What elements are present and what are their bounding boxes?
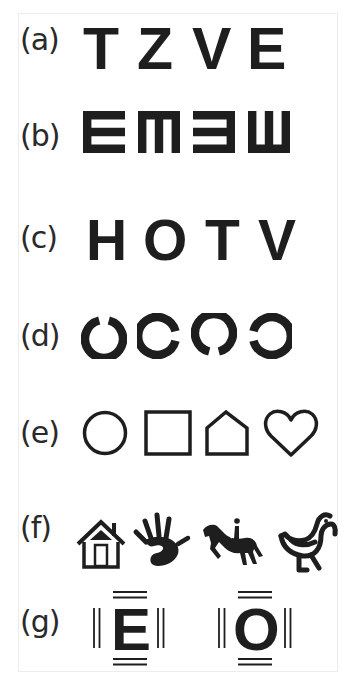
optotype-letter-t: T — [83, 20, 119, 79]
landolt-c-gap-top-icon — [81, 313, 127, 359]
row-label-e: (e) — [20, 415, 59, 450]
tumbling-e-right-icon — [83, 111, 125, 153]
optotype-letter-t-hotv: T — [205, 212, 240, 269]
optotype-letter-v: V — [192, 20, 231, 79]
lea-square-icon — [144, 410, 192, 456]
tumbling-e-up-icon — [248, 111, 290, 153]
lea-house-icon — [204, 410, 250, 456]
picture-bird-icon — [277, 510, 339, 574]
tumbling-e-left-icon — [193, 111, 235, 153]
picture-hand-icon — [132, 510, 192, 570]
crowded-letter-e: E — [111, 600, 151, 660]
lea-heart-icon — [263, 408, 319, 458]
row-label-d: (d) — [20, 318, 59, 353]
tumbling-e-down-icon — [138, 111, 180, 153]
row-label-f: (f) — [20, 510, 51, 545]
landolt-c-gap-left-icon — [246, 313, 292, 359]
row-label-g: (g) — [20, 604, 59, 639]
landolt-c-gap-right-icon — [137, 313, 183, 359]
row-label-c: (c) — [20, 220, 57, 255]
lea-circle-icon — [82, 410, 128, 456]
row-label-b: (b) — [20, 118, 59, 153]
optotype-letter-e: E — [247, 20, 286, 79]
picture-house-icon — [76, 518, 126, 570]
optotype-letter-z: Z — [137, 20, 173, 79]
optotype-letter-h: H — [86, 212, 127, 269]
optotype-letter-v-hotv: V — [258, 212, 296, 269]
landolt-c-gap-bottom-icon — [191, 313, 237, 359]
optotype-letter-o: O — [143, 212, 187, 269]
picture-horse-rider-icon — [201, 518, 269, 568]
crowded-letter-o: O — [233, 600, 280, 660]
row-label-a: (a) — [20, 22, 59, 57]
